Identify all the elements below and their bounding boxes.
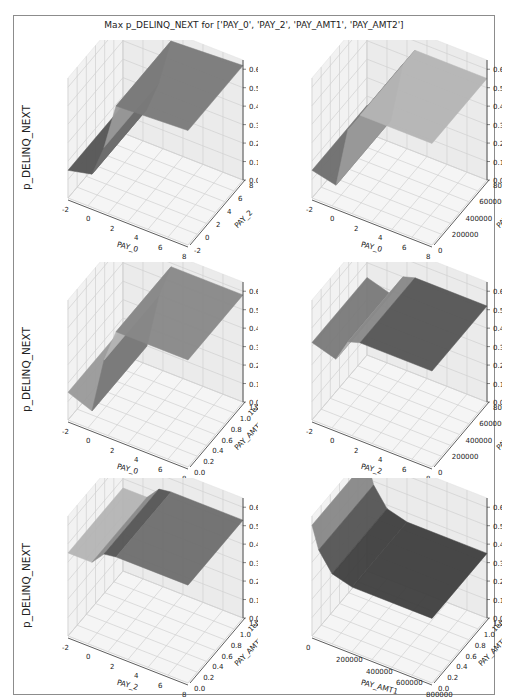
svg-text:0.4: 0.4 <box>249 103 258 111</box>
svg-text:6: 6 <box>238 195 243 203</box>
svg-text:0.2: 0.2 <box>493 578 502 586</box>
svg-text:600000: 600000 <box>479 198 502 206</box>
svg-text:0.6: 0.6 <box>222 653 234 661</box>
z-axis-label: p_DELINQ_NEXT <box>20 327 32 412</box>
svg-text:0: 0 <box>330 215 334 223</box>
figure-title: Max p_DELINQ_NEXT for ['PAY_0', 'PAY_2',… <box>14 20 494 30</box>
y-axis-label: PAY_AMT2 <box>477 635 502 668</box>
svg-text:0.6: 0.6 <box>493 504 502 512</box>
svg-text:0.8: 0.8 <box>231 426 242 434</box>
svg-text:0.0: 0.0 <box>249 177 258 185</box>
svg-text:0.4: 0.4 <box>493 541 502 549</box>
svg-text:0: 0 <box>86 653 90 661</box>
svg-text:2: 2 <box>110 663 114 671</box>
svg-text:0.8: 0.8 <box>475 642 486 650</box>
svg-text:200000: 200000 <box>336 656 363 664</box>
svg-text:4: 4 <box>134 234 139 242</box>
z-tick-labels: 0.00.10.20.30.40.50.6 <box>243 504 258 623</box>
svg-text:0.1: 0.1 <box>249 597 258 605</box>
subplot-6: 0200000400000600000800000PAY_AMT10.00.20… <box>262 478 502 698</box>
svg-text:2: 2 <box>354 447 358 455</box>
svg-text:0.1: 0.1 <box>493 159 502 167</box>
svg-text:0.3: 0.3 <box>493 344 502 352</box>
z-tick-labels: 0.00.10.20.30.40.50.6 <box>487 504 502 623</box>
svg-text:0.3: 0.3 <box>493 122 502 130</box>
svg-text:4: 4 <box>134 456 139 464</box>
svg-text:2: 2 <box>354 225 358 233</box>
svg-text:-2: -2 <box>62 206 69 214</box>
subplot-3: -202468PAY_00.00.20.40.60.81.01.2PAY_AMT… <box>18 262 258 482</box>
svg-text:0: 0 <box>306 644 310 652</box>
svg-text:0.3: 0.3 <box>493 560 502 568</box>
svg-text:0.1: 0.1 <box>249 159 258 167</box>
svg-text:400000: 400000 <box>366 668 393 676</box>
svg-text:1.0: 1.0 <box>484 631 495 639</box>
svg-text:-2: -2 <box>194 247 201 255</box>
svg-text:0.1: 0.1 <box>493 381 502 389</box>
svg-text:600000: 600000 <box>479 420 502 428</box>
svg-text:0: 0 <box>438 247 442 255</box>
svg-text:0.5: 0.5 <box>249 307 258 315</box>
svg-text:0.6: 0.6 <box>493 66 502 74</box>
svg-text:0: 0 <box>205 234 209 242</box>
svg-text:0.6: 0.6 <box>249 504 258 512</box>
svg-text:0.2: 0.2 <box>203 458 214 466</box>
svg-text:0.0: 0.0 <box>249 615 258 623</box>
svg-text:1.0: 1.0 <box>240 415 251 423</box>
svg-text:0.6: 0.6 <box>466 653 478 661</box>
svg-text:8: 8 <box>182 253 186 260</box>
svg-text:2: 2 <box>110 225 114 233</box>
z-tick-labels: 0.00.10.20.30.40.50.6 <box>487 66 502 185</box>
svg-text:0.2: 0.2 <box>203 674 214 682</box>
svg-text:0.0: 0.0 <box>493 399 502 407</box>
svg-text:8: 8 <box>182 691 186 698</box>
svg-text:4: 4 <box>134 672 139 680</box>
svg-text:0.2: 0.2 <box>249 362 258 370</box>
svg-text:0.2: 0.2 <box>447 674 458 682</box>
svg-text:0.1: 0.1 <box>493 597 502 605</box>
y-axis-label: PAY_AMT2 <box>233 635 258 668</box>
svg-text:200000: 200000 <box>452 231 479 239</box>
z-axis-label: p_DELINQ_NEXT <box>20 543 32 628</box>
svg-text:0.5: 0.5 <box>249 523 258 531</box>
svg-text:0.4: 0.4 <box>249 541 258 549</box>
subplot-5: -202468PAY_20.00.20.40.60.81.01.2PAY_AMT… <box>18 478 258 698</box>
subplot-2: -202468PAY_00200000400000600000800000PAY… <box>262 40 502 260</box>
svg-text:0.4: 0.4 <box>212 663 224 671</box>
svg-text:0: 0 <box>86 437 90 445</box>
z-tick-labels: 0.00.10.20.30.40.50.6 <box>243 66 258 185</box>
svg-text:0.0: 0.0 <box>249 399 258 407</box>
svg-text:8: 8 <box>426 253 430 260</box>
svg-text:0.4: 0.4 <box>249 325 258 333</box>
svg-text:4: 4 <box>378 234 383 242</box>
svg-text:0.4: 0.4 <box>493 103 502 111</box>
svg-text:4: 4 <box>227 208 232 216</box>
svg-text:0.6: 0.6 <box>249 288 258 296</box>
svg-text:400000: 400000 <box>466 215 493 223</box>
y-axis-label: PAY_2 <box>233 208 255 230</box>
svg-text:0.6: 0.6 <box>493 288 502 296</box>
svg-text:0.0: 0.0 <box>493 615 502 623</box>
svg-text:0.6: 0.6 <box>249 66 258 74</box>
svg-text:2: 2 <box>110 447 114 455</box>
svg-text:2: 2 <box>216 221 220 229</box>
svg-text:-2: -2 <box>62 644 69 652</box>
svg-text:6: 6 <box>158 466 163 474</box>
svg-text:6: 6 <box>158 682 163 690</box>
svg-text:0.5: 0.5 <box>493 85 502 93</box>
svg-text:0.1: 0.1 <box>249 381 258 389</box>
svg-text:0: 0 <box>330 437 334 445</box>
svg-text:0.2: 0.2 <box>249 578 258 586</box>
svg-text:200000: 200000 <box>452 453 479 461</box>
svg-text:0.3: 0.3 <box>249 344 258 352</box>
svg-text:0.0: 0.0 <box>493 177 502 185</box>
x-axis-label: PAY_AMT1 <box>360 678 399 697</box>
svg-text:0: 0 <box>438 469 442 477</box>
svg-text:6: 6 <box>158 244 163 252</box>
z-tick-labels: 0.00.10.20.30.40.50.6 <box>487 288 502 407</box>
svg-text:0.0: 0.0 <box>194 685 205 693</box>
svg-text:-2: -2 <box>62 428 69 436</box>
svg-text:600000: 600000 <box>396 679 423 687</box>
svg-text:0.4: 0.4 <box>456 663 468 671</box>
z-axis-label: p_DELINQ_NEXT <box>20 105 32 190</box>
